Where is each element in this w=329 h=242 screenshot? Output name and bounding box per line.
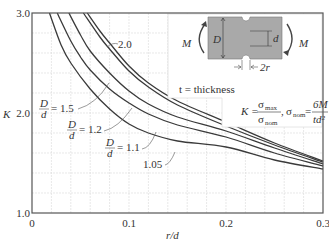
moment-label-right: M — [298, 37, 309, 49]
annotation-1-2-d: d — [69, 129, 75, 141]
formula-numerator: 6M — [313, 98, 329, 110]
formula-K: K = — [240, 105, 259, 117]
annotation-1-5: = 1.5 — [51, 102, 74, 114]
moment-label-left: M — [181, 37, 192, 49]
y-tick-label: 3.0 — [16, 7, 30, 19]
thickness-note: t = thickness — [179, 83, 235, 95]
dimension-d: d — [273, 32, 279, 44]
dimension-2r: 2r — [260, 61, 271, 73]
y-tick-label: 1.0 — [16, 207, 30, 219]
x-tick-label: 0.2 — [219, 217, 233, 229]
formula-denominator: td² — [313, 113, 326, 125]
annotation-1-1: = 1.1 — [117, 141, 140, 153]
inset-panel: D d 2r M M t = thickness K = σ max σ nom… — [168, 14, 329, 127]
annotation-1-5-d: d — [41, 108, 47, 120]
sigma-nom: σ — [258, 113, 264, 125]
y-axis-label: K — [2, 108, 11, 120]
x-tick-label: 0.3 — [316, 217, 329, 229]
stress-concentration-chart: D d 2r M M t = thickness K = σ max σ nom… — [0, 0, 329, 242]
x-axis-label: r/d — [166, 229, 179, 241]
annotation-2-0: 2.0 — [118, 38, 132, 50]
curve-annotations: 2.0 D d = 1.5 D d = 1.2 D d = 1.1 1.05 — [39, 38, 175, 170]
sigma-nom-lhs: σ — [286, 105, 292, 117]
annotation-1-05: 1.05 — [143, 158, 163, 170]
x-tick-label: 0.1 — [122, 217, 136, 229]
dimension-D: D — [212, 33, 221, 45]
annotation-1-1-d: d — [107, 147, 113, 159]
y-tick-label: 2.0 — [16, 107, 30, 119]
sigma-max: σ — [258, 98, 264, 110]
sigma-max-sub: max — [265, 104, 278, 112]
formula-equals: = — [305, 105, 311, 117]
x-tick-label: 0 — [29, 217, 35, 229]
annotation-1-2: = 1.2 — [79, 123, 102, 135]
sigma-nom-sub: nom — [265, 119, 278, 127]
formula-separator: , — [281, 105, 284, 117]
